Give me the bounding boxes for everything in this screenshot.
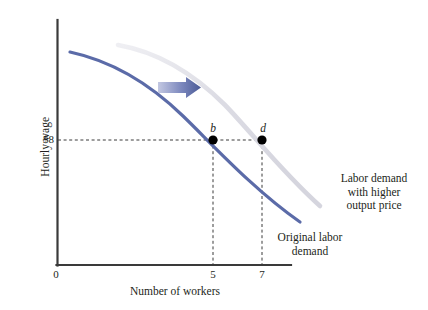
point-b-label: b [205, 122, 221, 136]
x-axis-origin-label: 0 [47, 268, 65, 281]
point-d-label: d [255, 122, 271, 136]
original-demand-curve-label: Original labor demand [256, 231, 364, 258]
x-axis-tick-label-5: 5 [204, 268, 222, 281]
guide-lines [58, 140, 262, 264]
chart-canvas [0, 0, 428, 310]
labor-demand-shift-figure: Hourly wage Number of workers $8 0 5 7 b… [0, 0, 428, 310]
x-axis-title: Number of workers [58, 285, 292, 299]
original-demand-curve [70, 52, 300, 222]
point-b-marker [208, 135, 217, 144]
y-axis-title: Hourly wage [39, 87, 53, 207]
x-axis-tick-label-7: 7 [253, 268, 271, 281]
point-d-marker [257, 135, 266, 144]
shifted-demand-curve-label: Labor demand with higher output price [322, 172, 426, 213]
y-axis-tick-label-wage: $8 [30, 133, 54, 146]
